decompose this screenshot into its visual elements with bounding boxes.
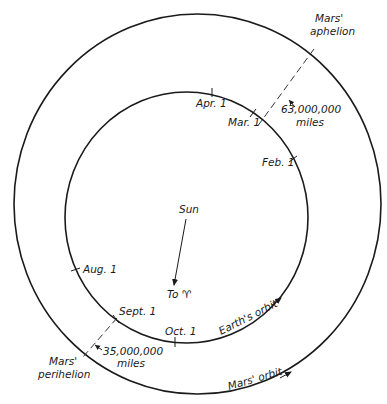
month-label-sept: Sept. 1	[119, 305, 156, 317]
earth-orbit-label: Earth's orbit	[216, 297, 280, 337]
vernal-equinox-label: To ♈	[167, 288, 191, 300]
perihelion-distance-pointer	[95, 345, 102, 350]
orbit-diagram: Apr. 1 Mar. 1 Feb. 1 Aug. 1 Sept. 1 Oct.…	[0, 0, 387, 404]
month-label-mar: Mar. 1	[228, 116, 260, 128]
aphelion-label-line1: Mars'	[315, 12, 343, 24]
perihelion-distance-unit: miles	[117, 357, 146, 369]
aphelion-distance: 63,000,000	[281, 103, 341, 115]
aphelion-distance-unit: miles	[296, 116, 325, 128]
month-label-aug: Aug. 1	[82, 263, 117, 275]
perihelion-label-line1: Mars'	[49, 355, 77, 367]
aphelion-label-line2: aphelion	[310, 25, 355, 37]
month-label-feb: Feb. 1	[262, 156, 295, 168]
perihelion-distance: 35,000,000	[103, 345, 163, 357]
sun-label: Sun	[179, 203, 199, 215]
month-label-apr: Apr. 1	[195, 97, 227, 109]
month-label-oct: Oct. 1	[165, 325, 197, 337]
mars-orbit-label: Mars' orbit	[226, 365, 284, 392]
vernal-equinox-arrow	[174, 219, 186, 285]
perihelion-label-line2: perihelion	[37, 368, 90, 380]
